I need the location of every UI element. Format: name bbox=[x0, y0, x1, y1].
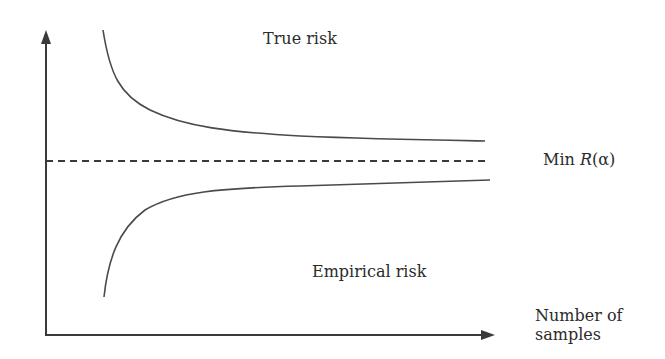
min-risk-label: Min R(α) bbox=[543, 150, 615, 170]
min-r-symbol: R bbox=[580, 150, 592, 169]
empirical-risk-label: Empirical risk bbox=[312, 262, 426, 282]
min-suffix: (α) bbox=[592, 150, 615, 169]
x-axis-label-line2: samples bbox=[535, 325, 601, 345]
x-axis-label-line1: Number of bbox=[535, 306, 622, 326]
min-prefix: Min bbox=[543, 150, 580, 169]
x-axis-arrow-icon bbox=[481, 330, 495, 340]
y-axis-arrow-icon bbox=[41, 30, 51, 44]
empirical-risk-curve bbox=[104, 180, 490, 297]
true-risk-label: True risk bbox=[263, 29, 337, 49]
